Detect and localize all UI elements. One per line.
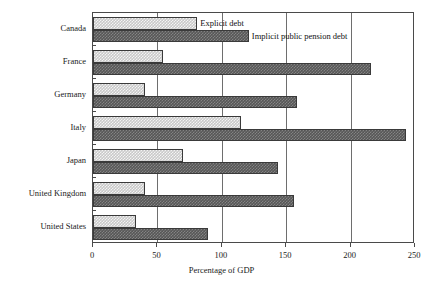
x-tick-label-200: 200 xyxy=(330,250,370,260)
legend-label-explicit-debt: Explicit debt xyxy=(200,18,244,28)
x-tick-0 xyxy=(92,243,93,247)
bar-germany-explicit-debt xyxy=(93,83,145,96)
category-tick-japan xyxy=(92,144,96,145)
category-tick-france xyxy=(92,45,96,46)
bar-italy-explicit-debt xyxy=(93,116,241,129)
x-tick-200 xyxy=(350,243,351,247)
category-label-japan: Japan xyxy=(0,155,86,165)
x-tick-label-0: 0 xyxy=(72,250,112,260)
bar-japan-implicit-public-pension-debt xyxy=(93,162,278,175)
x-tick-label-150: 150 xyxy=(265,250,305,260)
category-label-canada: Canada xyxy=(0,23,86,33)
bar-chart: CanadaFranceGermanyItalyJapanUnited King… xyxy=(0,0,443,295)
x-tick-label-50: 50 xyxy=(136,250,176,260)
bars-layer xyxy=(93,13,413,242)
bar-italy-implicit-public-pension-debt xyxy=(93,129,406,142)
category-tick-italy xyxy=(92,111,96,112)
bar-japan-explicit-debt xyxy=(93,149,183,162)
category-tick-united-states xyxy=(92,210,96,211)
category-label-italy: Italy xyxy=(0,122,86,132)
bar-united-kingdom-explicit-debt xyxy=(93,182,145,195)
bar-canada-explicit-debt xyxy=(93,17,197,30)
category-label-united-states: United States xyxy=(0,221,86,231)
bar-germany-implicit-public-pension-debt xyxy=(93,96,297,109)
x-tick-100 xyxy=(221,243,222,247)
legend-label-implicit-public-pension-debt: Implicit public pension debt xyxy=(252,31,348,41)
category-tick-united-kingdom xyxy=(92,177,96,178)
category-label-france: France xyxy=(0,56,86,66)
category-label-germany: Germany xyxy=(0,89,86,99)
x-tick-label-250: 250 xyxy=(394,250,434,260)
x-axis-title: Percentage of GDP xyxy=(0,265,443,275)
x-tick-150 xyxy=(285,243,286,247)
bar-united-kingdom-implicit-public-pension-debt xyxy=(93,195,294,208)
plot-area xyxy=(92,12,414,243)
bar-canada-implicit-public-pension-debt xyxy=(93,30,249,43)
bar-united-states-explicit-debt xyxy=(93,215,136,228)
bar-united-states-implicit-public-pension-debt xyxy=(93,228,208,241)
bar-france-implicit-public-pension-debt xyxy=(93,63,371,76)
category-label-united-kingdom: United Kingdom xyxy=(0,188,86,198)
category-tick-germany xyxy=(92,78,96,79)
x-tick-50 xyxy=(156,243,157,247)
x-tick-250 xyxy=(414,243,415,247)
x-tick-label-100: 100 xyxy=(201,250,241,260)
bar-france-explicit-debt xyxy=(93,50,163,63)
